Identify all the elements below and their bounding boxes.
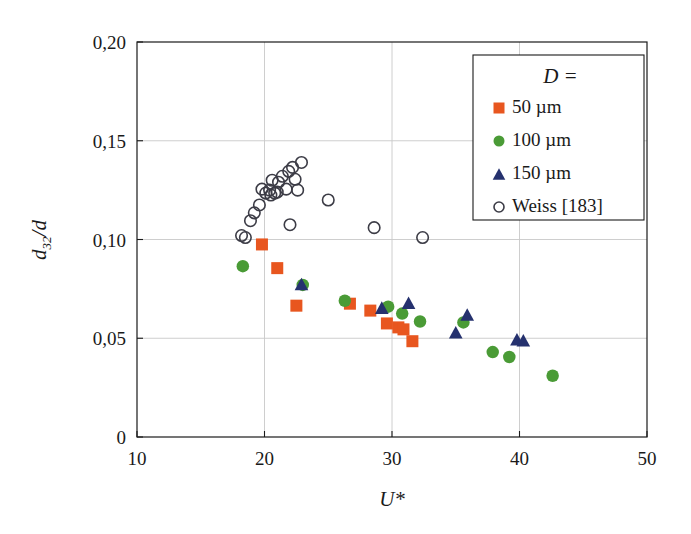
data-point bbox=[292, 184, 304, 196]
data-point bbox=[290, 300, 302, 312]
data-point bbox=[364, 305, 376, 317]
y-tick-label: 0,10 bbox=[93, 230, 126, 251]
data-point bbox=[417, 232, 429, 244]
legend-label: 100 µm bbox=[512, 129, 571, 150]
data-point bbox=[406, 335, 418, 347]
data-point bbox=[546, 370, 559, 383]
data-point bbox=[381, 317, 393, 329]
y-tick-label: 0,05 bbox=[93, 328, 126, 349]
y-tick-labels: 00,050,100,150,20 bbox=[93, 32, 126, 448]
data-point bbox=[396, 307, 409, 320]
data-point bbox=[237, 260, 250, 273]
y-tick-label: 0,15 bbox=[93, 131, 126, 152]
legend: D =50 µm100 µm150 µmWeiss [183] bbox=[473, 55, 644, 220]
data-point bbox=[323, 194, 335, 206]
y-axis-title: d32/d bbox=[27, 220, 54, 260]
data-point bbox=[339, 294, 352, 307]
scatter-plot: 1020304050 00,050,100,150,20 D =50 µm100… bbox=[0, 0, 691, 534]
legend-title: D = bbox=[542, 64, 578, 88]
data-point bbox=[284, 219, 296, 231]
series-circle bbox=[237, 260, 559, 382]
legend-marker-square bbox=[494, 103, 505, 114]
data-point bbox=[256, 238, 268, 250]
data-point bbox=[460, 308, 474, 321]
x-tick-label: 20 bbox=[255, 448, 274, 469]
x-tick-label: 30 bbox=[383, 448, 402, 469]
data-point bbox=[486, 346, 499, 359]
legend-marker-circle bbox=[494, 136, 505, 147]
svg-text:d32/d: d32/d bbox=[27, 220, 54, 260]
data-point bbox=[397, 323, 409, 335]
series-square bbox=[256, 238, 418, 347]
data-point bbox=[240, 232, 252, 244]
x-axis-title: U* bbox=[379, 487, 405, 511]
legend-label: 50 µm bbox=[512, 96, 562, 117]
y-tick-label: 0,20 bbox=[93, 32, 126, 53]
data-point bbox=[368, 222, 380, 234]
x-tick-label: 10 bbox=[128, 448, 147, 469]
data-point bbox=[271, 262, 283, 274]
x-tick-labels: 1020304050 bbox=[128, 448, 657, 469]
figure-container: 1020304050 00,050,100,150,20 D =50 µm100… bbox=[0, 0, 691, 534]
x-tick-label: 40 bbox=[510, 448, 529, 469]
data-point bbox=[296, 157, 308, 169]
data-point bbox=[503, 351, 516, 364]
y-tick-label: 0 bbox=[117, 427, 127, 448]
x-tick-label: 50 bbox=[638, 448, 657, 469]
data-point bbox=[289, 174, 301, 186]
legend-label: Weiss [183] bbox=[512, 195, 603, 216]
data-point bbox=[402, 296, 416, 309]
data-point bbox=[414, 315, 427, 328]
legend-label: 150 µm bbox=[512, 162, 571, 183]
svg-text:U*: U* bbox=[379, 487, 405, 511]
